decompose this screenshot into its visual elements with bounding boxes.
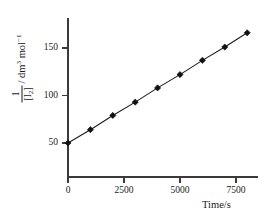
- data-point: [222, 44, 228, 50]
- y-axis-unit-prefix: / dm: [16, 64, 27, 83]
- x-tick-label-5000: 5000: [161, 186, 199, 196]
- x-tick-label-2500: 2500: [105, 186, 143, 196]
- data-point: [132, 99, 138, 105]
- y-tick-label-50: 50: [30, 138, 58, 148]
- y-axis-unit-exponent-2: −1: [15, 35, 23, 42]
- y-axis-title-fraction: 1 [I2]: [12, 85, 33, 102]
- x-axis-title: Time/s: [202, 200, 231, 211]
- y-axis-unit-exponent-1: 3: [15, 61, 23, 65]
- chart-figure: 50 100 150 0 2500 5000 7500 Time/s 1 [I2…: [0, 0, 271, 219]
- y-axis-title-denominator: [I2]: [22, 85, 33, 102]
- data-markers: [65, 30, 250, 146]
- data-point: [65, 140, 71, 146]
- iodine-subscript: 2: [26, 91, 34, 95]
- y-axis-title-numerator: 1: [12, 90, 22, 99]
- data-point: [244, 30, 250, 36]
- y-axis-title: 1 [I2] / dm3 mol−1: [12, 10, 33, 128]
- x-tick-label-0: 0: [53, 186, 83, 196]
- y-tick-marks: [62, 48, 68, 143]
- data-point: [110, 112, 116, 118]
- data-point: [199, 57, 205, 63]
- x-tick-marks: [68, 177, 236, 183]
- data-point: [87, 127, 93, 133]
- y-tick-label-150: 150: [30, 43, 58, 53]
- x-tick-label-7500: 7500: [217, 186, 255, 196]
- y-axis-title-units: / dm3 mol−1: [17, 35, 28, 84]
- data-point: [155, 85, 161, 91]
- y-axis-unit-mid: mol: [16, 42, 27, 61]
- data-point: [177, 72, 183, 78]
